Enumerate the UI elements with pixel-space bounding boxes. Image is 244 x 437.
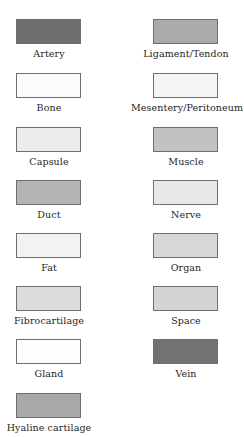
legend-item-bone: Bone xyxy=(0,73,121,125)
swatch-fat xyxy=(16,233,81,258)
legend-label: Mesentery/Peritoneum xyxy=(131,102,241,113)
legend-label: Space xyxy=(131,315,241,326)
legend-label: Fibrocartilage xyxy=(0,315,104,326)
swatch-artery xyxy=(16,19,81,44)
legend-item-artery: Artery xyxy=(0,19,121,71)
swatch-hyaline-cartilage xyxy=(16,393,81,418)
legend-label: Gland xyxy=(0,368,104,379)
swatch-space xyxy=(153,286,218,311)
legend-label: Nerve xyxy=(131,209,241,220)
legend-item-mesentery-peritoneum: Mesentery/Peritoneum xyxy=(121,73,242,125)
legend-item-gland: Gland xyxy=(0,339,121,391)
swatch-capsule xyxy=(16,127,81,152)
legend-label: Organ xyxy=(131,262,241,273)
legend-item-ligament-tendon: Ligament/Tendon xyxy=(121,19,242,71)
legend-item-fat: Fat xyxy=(0,233,121,285)
legend-label: Bone xyxy=(0,102,104,113)
legend-label: Ligament/Tendon xyxy=(131,48,241,59)
legend-item-organ: Organ xyxy=(121,233,242,285)
swatch-mesentery-peritoneum xyxy=(153,73,218,98)
swatch-vein xyxy=(153,339,218,364)
swatch-nerve xyxy=(153,180,218,205)
swatch-gland xyxy=(16,339,81,364)
legend-label: Capsule xyxy=(0,156,104,167)
swatch-muscle xyxy=(153,127,218,152)
legend-label: Vein xyxy=(131,368,241,379)
legend-item-duct: Duct xyxy=(0,180,121,232)
legend-label: Fat xyxy=(0,262,104,273)
legend-item-hyaline-cartilage: Hyaline cartilage xyxy=(0,393,121,437)
swatch-duct xyxy=(16,180,81,205)
swatch-ligament-tendon xyxy=(153,19,218,44)
legend-label: Artery xyxy=(0,48,104,59)
legend-label: Duct xyxy=(0,209,104,220)
swatch-organ xyxy=(153,233,218,258)
legend-item-muscle: Muscle xyxy=(121,127,242,179)
legend-label: Muscle xyxy=(131,156,241,167)
legend-label: Hyaline cartilage xyxy=(0,422,104,433)
swatch-bone xyxy=(16,73,81,98)
legend-item-vein: Vein xyxy=(121,339,242,391)
swatch-fibrocartilage xyxy=(16,286,81,311)
legend-item-capsule: Capsule xyxy=(0,127,121,179)
legend-item-fibrocartilage: Fibrocartilage xyxy=(0,286,121,338)
legend-item-nerve: Nerve xyxy=(121,180,242,232)
legend-item-space: Space xyxy=(121,286,242,338)
